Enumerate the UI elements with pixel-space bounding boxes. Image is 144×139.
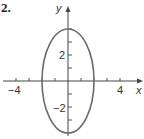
x-tick-label-4: 4 <box>117 85 123 96</box>
y-axis-label: y <box>56 3 62 14</box>
y-tick-label-2: 2 <box>59 50 65 61</box>
x-axis-arrow-icon <box>137 79 143 84</box>
x-tick-label-neg4: −4 <box>8 85 21 96</box>
y-ticks <box>68 29 72 120</box>
y-axis-arrow-icon <box>66 6 71 12</box>
ellipse-plot <box>0 0 144 139</box>
y-tick-label-neg2: −2 <box>53 103 66 114</box>
x-axis-label: x <box>136 85 142 96</box>
